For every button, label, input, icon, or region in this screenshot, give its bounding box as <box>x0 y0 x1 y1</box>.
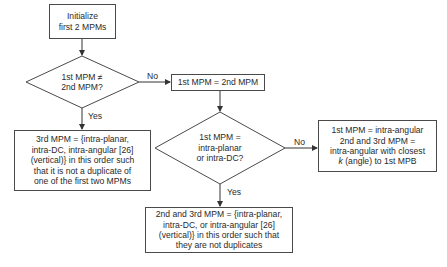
init-box: Initialize first 2 MPMs <box>49 4 116 39</box>
decision1-text: 1st MPM ≠ 2nd MPM? <box>40 66 124 98</box>
decision1-yes-label: Yes <box>88 111 102 121</box>
decision1-no-label: No <box>147 71 158 81</box>
angular-box: 1st MPM = intra-angular 2nd and 3rd MPM … <box>318 120 437 172</box>
decision2-text: 1st MPM = intra-planar or intra-DC? <box>180 130 260 166</box>
decision2-no-label: No <box>294 137 305 147</box>
init-box-text: Initialize first 2 MPMs <box>59 11 107 32</box>
third-mpm-box: 3rd MPM = {intra-planar, intra-DC, intra… <box>14 130 151 191</box>
equal-box: 1st MPM = 2nd MPM <box>171 74 265 91</box>
decision2-yes-label: Yes <box>227 187 241 197</box>
planar-dc-box: 2nd and 3rd MPM = {intra-planar, intra-D… <box>145 207 293 253</box>
